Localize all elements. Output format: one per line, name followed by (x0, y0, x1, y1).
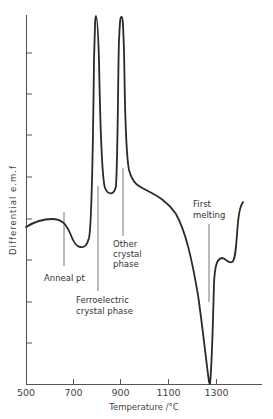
y-ticks (27, 53, 33, 343)
other-phase-label-line1: Other (113, 239, 138, 249)
x-tick-label-1100: 1100 (156, 387, 180, 398)
x-tick-label-900: 900 (111, 387, 129, 398)
other-phase-label-line2: crystal (113, 249, 142, 259)
x-tick-label-700: 700 (64, 387, 82, 398)
first-melting-label-line2: melting (193, 210, 225, 220)
other-phase-label-line3: phase (113, 259, 139, 269)
x-tick-label-500: 500 (17, 387, 35, 398)
y-axis-label: Differential e.m.f (8, 165, 18, 255)
x-ticks (74, 379, 217, 385)
anneal-label: Anneal pt (44, 273, 85, 283)
first-melting-label-line1: First (193, 199, 212, 209)
ferroelectric-label-line2: crystal phase (76, 306, 133, 316)
x-tick-label-1300: 1300 (204, 387, 228, 398)
ferroelectric-label-line1: Ferroelectric (76, 295, 129, 305)
dta-chart: 500 700 900 1100 1300 Temperature /°C Di… (0, 0, 273, 419)
x-axis-label: Temperature /°C (108, 402, 179, 412)
